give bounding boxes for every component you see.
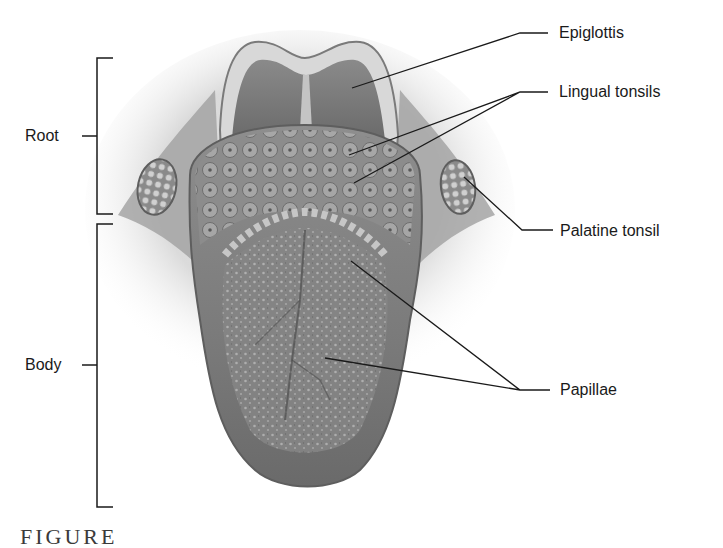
palatine-tonsil-label: Palatine tonsil [560,223,660,239]
root-label: Root [25,128,59,144]
figure-caption: FIGURE [20,526,117,548]
papillae-area [222,228,387,453]
body-label: Body [25,357,61,373]
lingual-tonsils-label: Lingual tonsils [559,84,660,100]
papillae-label: Papillae [560,382,617,398]
epiglottis-label: Epiglottis [559,25,624,41]
